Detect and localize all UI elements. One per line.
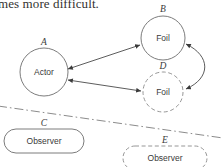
node-foil-d-label: Foil: [156, 87, 170, 97]
node-observer-c[interactable]: Observer C: [4, 118, 84, 153]
node-actor-a-label: Actor: [34, 67, 54, 77]
diagram-figure: Actor A Foil B Foil D Observer C Observe…: [0, 0, 221, 167]
node-foil-b[interactable]: Foil B: [141, 4, 185, 60]
node-foil-b-label: Foil: [156, 33, 170, 43]
edge-actor-foil-d: [68, 80, 141, 91]
edge-actor-foil-b: [68, 45, 140, 69]
node-foil-b-id: B: [160, 4, 166, 14]
node-actor-a-id: A: [40, 37, 47, 47]
node-actor-a[interactable]: Actor A: [20, 37, 68, 96]
node-observer-c-label: Observer: [27, 136, 62, 146]
node-foil-d[interactable]: Foil D: [143, 61, 183, 112]
node-observer-e-label: Observer: [148, 153, 183, 163]
node-observer-e[interactable]: Observer E: [123, 135, 207, 167]
node-observer-e-id: E: [161, 135, 168, 145]
dash-dot-divider-line: [0, 106, 221, 138]
node-foil-d-id: D: [159, 61, 167, 71]
node-observer-c-id: C: [41, 118, 48, 128]
edge-foil-b-foil-d-curved: [186, 44, 205, 89]
diagram-canvas: mes more difficult. Actor A Foil: [0, 0, 221, 167]
